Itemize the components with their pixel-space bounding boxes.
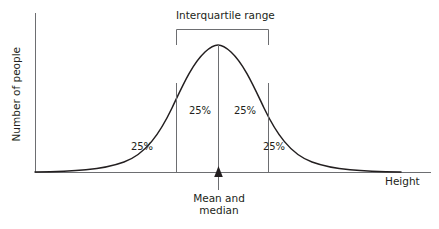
normal-distribution-figure: Interquartile range Number of people Hei… (0, 0, 439, 229)
mean-median-label-line2: median (199, 204, 238, 216)
mean-median-label-line1: Mean and (193, 192, 245, 204)
percent-label-third-quartile: 25% (225, 105, 265, 117)
chart-title: Interquartile range (176, 9, 268, 21)
mean-pointer-arrowhead (214, 166, 223, 177)
percent-label-first-quartile: 25% (122, 141, 162, 153)
percent-label-second-quartile: 25% (180, 105, 220, 117)
percent-label-fourth-quartile: 25% (254, 141, 294, 153)
interquartile-bracket (177, 30, 269, 46)
y-axis-label: Number of people (10, 34, 22, 154)
mean-median-label: Mean and median (173, 192, 265, 217)
x-axis-label: Height (385, 175, 420, 187)
